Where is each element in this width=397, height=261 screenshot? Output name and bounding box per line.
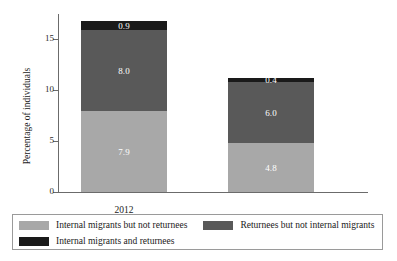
bar-segment-2012-returnees-only[interactable]: 8.0	[81, 30, 167, 111]
bar-value-2018-middle: 6.0	[265, 108, 277, 118]
bar-stack-2018: 6.0 4.8	[228, 78, 314, 192]
legend-row-2: Internal migrants and returnees	[19, 234, 377, 248]
legend-label-internal-migrants-not-returnees: Internal migrants but not returnees	[56, 219, 187, 232]
bar-segment-2012-internal-and-returnees[interactable]: 0.9	[81, 21, 167, 30]
y-tick-label-5: 5	[50, 134, 55, 147]
bar-value-2012-middle: 8.0	[118, 66, 130, 76]
legend-item-internal-migrants-not-returnees[interactable]: Internal migrants but not returnees	[19, 219, 187, 232]
y-axis-spine	[58, 14, 59, 193]
legend-row-1: Internal migrants but not returnees Retu…	[19, 218, 377, 232]
bar-value-2018-bottom: 4.8	[265, 163, 277, 173]
legend-swatch-dark-gray	[203, 221, 233, 230]
bar-value-2012-top: 0.9	[118, 21, 130, 31]
chart-figure: Percentage of individuals 0 5 10 15 0.9	[0, 0, 397, 261]
y-tick-label-10: 10	[45, 83, 54, 96]
legend-item-internal-migrants-and-returnees[interactable]: Internal migrants and returnees	[19, 235, 174, 248]
bar-segment-2012-internal-only[interactable]: 7.9	[81, 111, 167, 192]
bar-value-2018-top: 0.4	[228, 75, 314, 85]
y-tick-label-0: 0	[50, 185, 55, 198]
x-axis-spine	[58, 192, 368, 193]
legend-label-returnees-not-internal-migrants: Returnees but not internal migrants	[240, 219, 374, 232]
y-axis-title: Percentage of individuals	[20, 40, 34, 192]
plot-area: Percentage of individuals 0 5 10 15 0.9	[58, 14, 368, 193]
bar-group-2012: 0.9 8.0 7.9 2012	[81, 21, 167, 192]
bar-value-2012-bottom: 7.9	[118, 147, 130, 157]
legend-swatch-light-gray	[19, 221, 49, 230]
bar-group-2018: 6.0 4.8 0.4 2018	[228, 78, 314, 192]
legend-item-returnees-not-internal-migrants[interactable]: Returnees but not internal migrants	[203, 219, 374, 232]
bar-segment-2018-returnees-only[interactable]: 6.0	[228, 82, 314, 143]
y-tick-label-15: 15	[45, 32, 54, 45]
legend-label-internal-migrants-and-returnees: Internal migrants and returnees	[56, 235, 174, 248]
bar-stack-2012: 0.9 8.0 7.9	[81, 21, 167, 192]
legend-swatch-black	[19, 237, 49, 246]
chart-legend: Internal migrants but not returnees Retu…	[12, 214, 383, 250]
bar-segment-2018-internal-only[interactable]: 4.8	[228, 143, 314, 192]
